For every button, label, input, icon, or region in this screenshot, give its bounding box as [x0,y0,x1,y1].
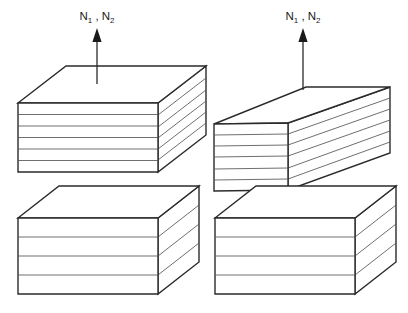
normal-label-left-separator: , [92,10,102,22]
normal-label-right-sub2: 2 [316,16,321,25]
normal-label-left-symbol1: N [79,10,87,22]
normal-label-right-symbol2: N [308,10,316,22]
normal-label-right-symbol1: N [285,10,293,22]
lower-block-left [18,186,199,294]
normal-label-right-separator: , [298,10,308,22]
upper-block-left [18,66,206,172]
lower-block-right [215,186,396,294]
layered-blocks-diagram: N1 , N2 [0,0,408,313]
normal-label-left-sub2: 2 [110,16,115,25]
normal-label-left-symbol2: N [102,10,110,22]
